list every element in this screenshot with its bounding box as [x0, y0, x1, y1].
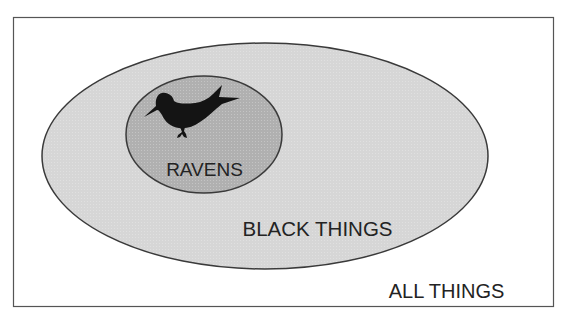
ravens-label: RAVENS [166, 159, 243, 180]
euler-diagram: RAVENS BLACK THINGS ALL THINGS [0, 0, 567, 317]
black-things-label: BLACK THINGS [243, 217, 393, 240]
all-things-label: ALL THINGS [389, 280, 505, 302]
